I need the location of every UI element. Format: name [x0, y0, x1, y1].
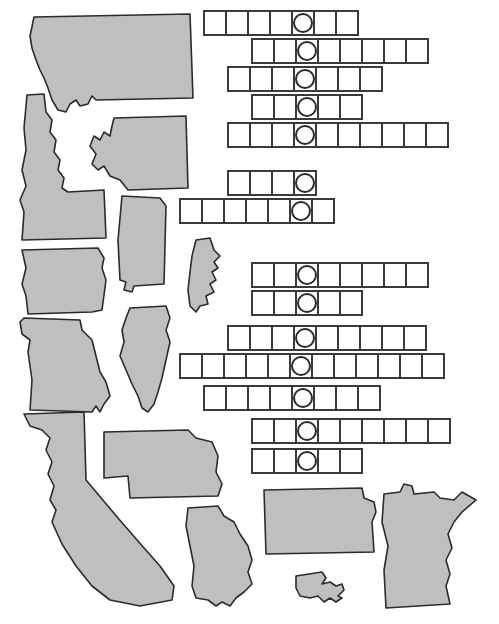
- answer-cell[interactable]: [355, 353, 379, 379]
- answer-cell[interactable]: [271, 66, 295, 92]
- answer-cell[interactable]: [317, 38, 341, 64]
- answer-cell-circled[interactable]: [291, 385, 315, 411]
- answer-cell[interactable]: [251, 262, 275, 288]
- answer-cell[interactable]: [337, 122, 361, 148]
- answer-cell[interactable]: [399, 353, 423, 379]
- answer-cell-circled[interactable]: [293, 66, 317, 92]
- answer-cell[interactable]: [405, 38, 429, 64]
- answer-cell[interactable]: [381, 325, 405, 351]
- answer-cell[interactable]: [383, 418, 407, 444]
- answer-cell[interactable]: [223, 198, 247, 224]
- answer-cell[interactable]: [223, 353, 247, 379]
- answer-cell-circled[interactable]: [293, 122, 317, 148]
- answer-cell[interactable]: [249, 170, 273, 196]
- answer-cell[interactable]: [267, 353, 291, 379]
- answer-cell[interactable]: [335, 10, 359, 36]
- answer-cell[interactable]: [315, 66, 339, 92]
- answer-cell[interactable]: [405, 262, 429, 288]
- answer-cell[interactable]: [317, 448, 341, 474]
- answer-cell[interactable]: [251, 418, 275, 444]
- answer-cell[interactable]: [251, 448, 275, 474]
- answer-cell[interactable]: [405, 418, 429, 444]
- answer-cell[interactable]: [179, 198, 203, 224]
- answer-cell[interactable]: [317, 262, 341, 288]
- answer-cell[interactable]: [339, 262, 363, 288]
- answer-cell[interactable]: [273, 448, 297, 474]
- answer-cell[interactable]: [315, 325, 339, 351]
- answer-cell[interactable]: [361, 418, 385, 444]
- answer-cell[interactable]: [403, 122, 427, 148]
- answer-cell[interactable]: [339, 290, 363, 316]
- answer-cell[interactable]: [251, 94, 275, 120]
- answer-cell[interactable]: [339, 418, 363, 444]
- answer-cell[interactable]: [311, 198, 335, 224]
- answer-cell-circled[interactable]: [295, 262, 319, 288]
- answer-cell[interactable]: [337, 325, 361, 351]
- answer-cell[interactable]: [421, 353, 445, 379]
- answer-cell[interactable]: [203, 385, 227, 411]
- answer-cell[interactable]: [251, 38, 275, 64]
- answer-cell[interactable]: [381, 122, 405, 148]
- answer-cell[interactable]: [361, 262, 385, 288]
- answer-cell[interactable]: [225, 385, 249, 411]
- answer-cell-circled[interactable]: [289, 198, 313, 224]
- answer-cell[interactable]: [383, 38, 407, 64]
- answer-cell[interactable]: [273, 262, 297, 288]
- answer-cell[interactable]: [315, 122, 339, 148]
- answer-cell-circled[interactable]: [289, 353, 313, 379]
- answer-cell[interactable]: [271, 122, 295, 148]
- answer-cell-circled[interactable]: [291, 10, 315, 36]
- answer-cell[interactable]: [249, 66, 273, 92]
- answer-cell[interactable]: [271, 170, 295, 196]
- answer-cell[interactable]: [203, 10, 227, 36]
- answer-cell[interactable]: [317, 290, 341, 316]
- answer-cell-circled[interactable]: [295, 448, 319, 474]
- answer-cell[interactable]: [267, 198, 291, 224]
- answer-cell[interactable]: [227, 66, 251, 92]
- answer-cell[interactable]: [339, 38, 363, 64]
- answer-cell[interactable]: [425, 122, 449, 148]
- answer-cell[interactable]: [269, 385, 293, 411]
- answer-cell[interactable]: [247, 10, 271, 36]
- answer-cell[interactable]: [317, 94, 341, 120]
- answer-cell[interactable]: [403, 325, 427, 351]
- answer-cell-circled[interactable]: [293, 170, 317, 196]
- answer-cell[interactable]: [227, 170, 251, 196]
- answer-cell[interactable]: [361, 38, 385, 64]
- answer-cell[interactable]: [359, 122, 383, 148]
- answer-cell[interactable]: [383, 262, 407, 288]
- answer-cell[interactable]: [317, 418, 341, 444]
- answer-cell[interactable]: [313, 385, 337, 411]
- answer-cell[interactable]: [333, 353, 357, 379]
- answer-cell[interactable]: [339, 448, 363, 474]
- answer-cell-circled[interactable]: [295, 290, 319, 316]
- answer-cell[interactable]: [249, 122, 273, 148]
- answer-cell[interactable]: [251, 290, 275, 316]
- answer-cell[interactable]: [377, 353, 401, 379]
- answer-cell[interactable]: [245, 353, 269, 379]
- answer-cell-circled[interactable]: [295, 94, 319, 120]
- answer-cell[interactable]: [247, 385, 271, 411]
- answer-cell-circled[interactable]: [293, 325, 317, 351]
- answer-cell-circled[interactable]: [295, 418, 319, 444]
- answer-cell[interactable]: [271, 325, 295, 351]
- answer-cell[interactable]: [359, 66, 383, 92]
- answer-cell[interactable]: [273, 94, 297, 120]
- answer-cell[interactable]: [313, 10, 337, 36]
- answer-cell[interactable]: [273, 38, 297, 64]
- answer-cell[interactable]: [179, 353, 203, 379]
- answer-cell[interactable]: [339, 94, 363, 120]
- answer-cell[interactable]: [249, 325, 273, 351]
- answer-cell[interactable]: [269, 10, 293, 36]
- answer-cell[interactable]: [245, 198, 269, 224]
- answer-cell[interactable]: [427, 418, 451, 444]
- answer-cell[interactable]: [357, 385, 381, 411]
- answer-cell[interactable]: [201, 353, 225, 379]
- answer-cell[interactable]: [311, 353, 335, 379]
- answer-cell[interactable]: [227, 122, 251, 148]
- answer-cell[interactable]: [359, 325, 383, 351]
- answer-cell[interactable]: [273, 290, 297, 316]
- answer-cell-circled[interactable]: [295, 38, 319, 64]
- answer-cell[interactable]: [225, 10, 249, 36]
- answer-cell[interactable]: [335, 385, 359, 411]
